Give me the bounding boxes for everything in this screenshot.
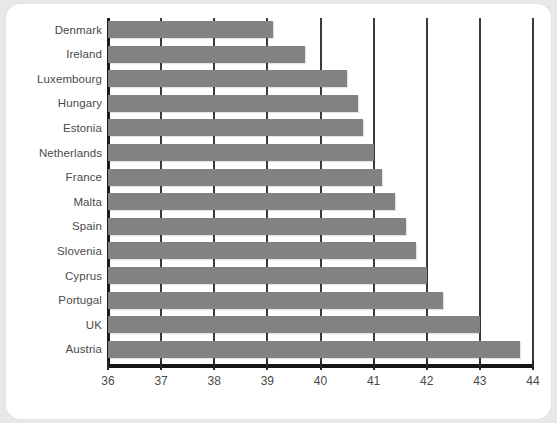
bar-row — [108, 218, 406, 235]
category-label-luxembourg: Luxembourg — [6, 73, 102, 85]
category-label-denmark: Denmark — [6, 24, 102, 36]
x-tick-label-37: 37 — [141, 374, 181, 388]
x-tick-label-40: 40 — [301, 374, 341, 388]
x-tick-38 — [213, 361, 215, 370]
bar-denmark — [108, 21, 273, 38]
bar-row — [108, 144, 374, 161]
bar-cyprus — [108, 267, 427, 284]
x-tick-label-43: 43 — [460, 374, 500, 388]
gridline-41 — [373, 18, 375, 366]
bar-netherlands — [108, 144, 374, 161]
bar-ireland — [108, 46, 305, 63]
bar-row — [108, 169, 382, 186]
x-tick-36 — [107, 361, 109, 370]
bar-row — [108, 21, 273, 38]
category-label-uk: UK — [6, 319, 102, 331]
gridline-43 — [479, 18, 481, 366]
x-tick-label-36: 36 — [88, 374, 128, 388]
category-label-slovenia: Slovenia — [6, 245, 102, 257]
bar-uk — [108, 316, 480, 333]
bar-row — [108, 95, 358, 112]
bar-row — [108, 46, 305, 63]
bar-row — [108, 292, 443, 309]
x-tick-label-38: 38 — [194, 374, 234, 388]
category-label-estonia: Estonia — [6, 122, 102, 134]
bar-france — [108, 169, 382, 186]
bar-row — [108, 267, 427, 284]
category-label-hungary: Hungary — [6, 97, 102, 109]
category-label-portugal: Portugal — [6, 294, 102, 306]
x-tick-37 — [160, 361, 162, 370]
bar-row — [108, 341, 520, 358]
bar-spain — [108, 218, 406, 235]
category-label-austria: Austria — [6, 343, 102, 355]
category-label-malta: Malta — [6, 196, 102, 208]
bar-luxembourg — [108, 70, 347, 87]
x-tick-44 — [532, 361, 534, 370]
category-label-ireland: Ireland — [6, 48, 102, 60]
bar-slovenia — [108, 242, 416, 259]
bar-hungary — [108, 95, 358, 112]
bar-row — [108, 193, 395, 210]
x-tick-40 — [320, 361, 322, 370]
category-label-netherlands: Netherlands — [6, 147, 102, 159]
category-label-cyprus: Cyprus — [6, 270, 102, 282]
gridline-42 — [426, 18, 428, 366]
x-tick-label-44: 44 — [513, 374, 551, 388]
x-tick-label-42: 42 — [407, 374, 447, 388]
x-tick-label-41: 41 — [354, 374, 394, 388]
gridline-44 — [532, 18, 534, 366]
bar-row — [108, 70, 347, 87]
x-tick-42 — [426, 361, 428, 370]
bar-estonia — [108, 119, 363, 136]
category-label-spain: Spain — [6, 220, 102, 232]
category-label-france: France — [6, 171, 102, 183]
bar-austria — [108, 341, 520, 358]
x-tick-39 — [266, 361, 268, 370]
chart-card: DenmarkIrelandLuxembourgHungaryEstoniaNe… — [6, 4, 551, 419]
bar-row — [108, 242, 416, 259]
x-tick-43 — [479, 361, 481, 370]
bar-malta — [108, 193, 395, 210]
bar-row — [108, 316, 480, 333]
bar-portugal — [108, 292, 443, 309]
bar-row — [108, 119, 363, 136]
x-tick-label-39: 39 — [247, 374, 287, 388]
x-tick-41 — [373, 361, 375, 370]
horizontal-bar-chart: DenmarkIrelandLuxembourgHungaryEstoniaNe… — [6, 4, 551, 419]
